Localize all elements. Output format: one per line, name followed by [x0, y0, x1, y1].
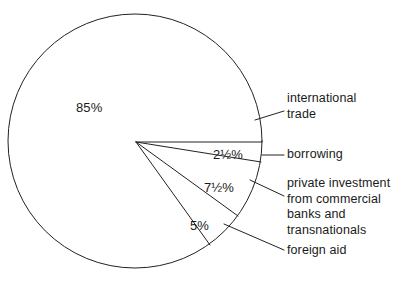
slice-label-line: international [287, 91, 356, 107]
slice-label-line: private investment [287, 176, 390, 192]
slice-label-international-trade: international trade [287, 91, 356, 122]
slice-value-private-investment: 7½% [204, 180, 234, 195]
slice-label-line: banks and [287, 207, 390, 223]
slice-label-line: borrowing [287, 147, 343, 163]
slice-label-private-investment: private investment from commercial banks… [287, 176, 390, 238]
slice-value-foreign-aid: 5% [190, 218, 209, 233]
pie-chart-graphic [0, 0, 416, 286]
pie-chart: 85% 2½% 7½% 5% international trade borro… [0, 0, 416, 286]
leader-line-foreign-aid [224, 224, 284, 250]
leader-line-private-investment [250, 180, 284, 196]
slice-label-foreign-aid: foreign aid [287, 243, 346, 259]
slice-label-line: foreign aid [287, 243, 346, 259]
slice-label-line: trade [287, 107, 356, 123]
pie-outline-circle [8, 14, 262, 268]
slice-label-line: from commercial [287, 192, 390, 208]
slice-label-borrowing: borrowing [287, 147, 343, 163]
slice-value-borrowing: 2½% [213, 147, 243, 162]
slice-label-line: transnationals [287, 223, 390, 239]
slice-value-international-trade: 85% [76, 100, 102, 115]
